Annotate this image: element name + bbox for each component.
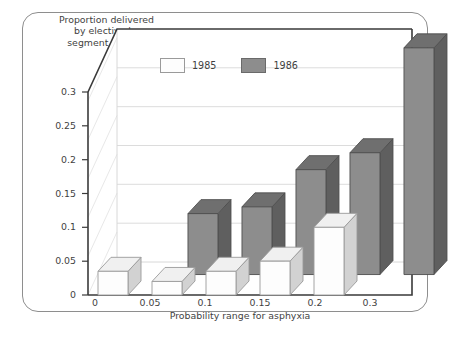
legend-item-1985: 1985 (160, 58, 216, 73)
x-tick-label-0: 0 (73, 297, 117, 308)
legend: 1985 1986 (160, 58, 298, 73)
x-tick-label-02: 0.2 (293, 297, 337, 308)
y-tick-label-015: 0.15 (34, 188, 76, 199)
y-tick-label-01: 0.1 (34, 221, 76, 232)
chart-figure: Proportion delivered by elective lower s… (0, 0, 451, 337)
x-axis-label: Probability range for asphyxia (95, 310, 385, 321)
y-tick-label-0: 0 (34, 289, 76, 300)
white-swatch-icon (160, 58, 185, 73)
bar-1985-0.2 (314, 213, 357, 295)
y-tick-label-03: 0.3 (34, 86, 76, 97)
y-tick-marks (82, 92, 88, 295)
y-tick-label-025: 0.25 (34, 120, 76, 131)
gray-swatch-icon (241, 58, 266, 73)
bar-1986-0.3 (404, 34, 447, 275)
x-tick-label-005: 0.05 (128, 297, 172, 308)
x-tick-label-015: 0.15 (238, 297, 282, 308)
x-tick-label-01: 0.1 (183, 297, 227, 308)
plot-svg (0, 0, 451, 337)
y-tick-label-005: 0.05 (34, 255, 76, 266)
legend-item-1986: 1986 (241, 58, 297, 73)
x-tick-label-03: 0.3 (348, 297, 392, 308)
legend-label-1985: 1985 (192, 60, 216, 71)
legend-label-1986: 1986 (273, 60, 297, 71)
y-tick-label-02: 0.2 (34, 154, 76, 165)
bar-1985-0.15 (260, 247, 303, 295)
plot-area (0, 0, 451, 337)
